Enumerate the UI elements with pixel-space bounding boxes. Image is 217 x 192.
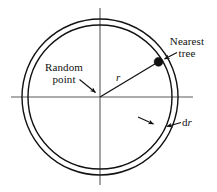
nearest-tree-label: Nearest tree [159, 36, 215, 59]
radius-label: r [116, 72, 120, 84]
arrow-annulus-left [138, 117, 154, 124]
random-point-label-line2: point [33, 74, 95, 86]
figure-container: Nearest tree Random point r dr [0, 0, 217, 192]
random-point-label: Random point [33, 62, 95, 85]
nearest-tree-label-line2: tree [159, 48, 215, 60]
annulus-thickness-label: dr [182, 117, 192, 129]
nearest-tree-label-line1: Nearest [159, 36, 215, 48]
random-point-label-line1: Random [33, 62, 95, 74]
diagram-canvas [0, 0, 217, 192]
annulus-thickness-symbol: r [188, 116, 192, 128]
radius-line [100, 62, 159, 98]
